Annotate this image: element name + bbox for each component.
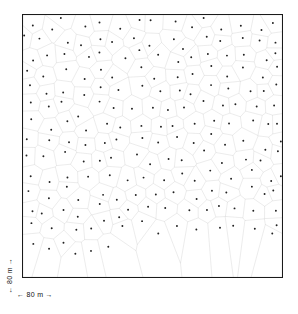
- plot-frame: [22, 14, 283, 278]
- voronoi-figure: ← 80 m → ← 80 m →: [0, 0, 298, 314]
- y-axis-scale-label: ← 80 m →: [6, 248, 13, 304]
- x-axis-scale-label: ← 80 m →: [17, 291, 53, 298]
- voronoi-site-points: [23, 17, 282, 255]
- voronoi-tessellation: [23, 15, 282, 277]
